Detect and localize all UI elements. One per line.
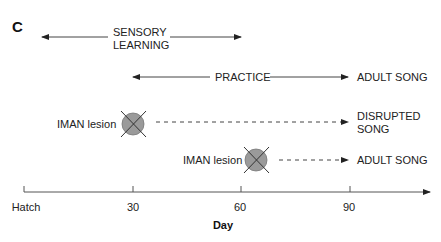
- lesion-early-outcome-line2: SONG: [357, 123, 389, 135]
- song-learning-timeline-diagram: C SENSORY LEARNING PRACTICE ADULT SONG I…: [0, 0, 441, 242]
- lesion-late-outcome: ADULT SONG: [357, 154, 428, 166]
- lesion-early-outcome-line1: DISRUPTED: [357, 110, 421, 122]
- panel-label: C: [12, 18, 23, 35]
- practice-phase: PRACTICE ADULT SONG: [133, 71, 428, 83]
- lesion-late: IMAN lesion ADULT SONG: [183, 147, 428, 173]
- day-axis: Hatch 30 60 90 Day: [12, 186, 430, 231]
- practice-label: PRACTICE: [215, 71, 271, 83]
- tick-label-hatch: Hatch: [12, 201, 41, 213]
- practice-outcome: ADULT SONG: [357, 71, 428, 83]
- lesion-early-label: IMAN lesion: [57, 118, 116, 130]
- tick-label-90: 90: [343, 201, 355, 213]
- sensory-label-line2: LEARNING: [113, 39, 169, 51]
- sensory-label-line1: SENSORY: [113, 26, 167, 38]
- lesion-early: IMAN lesion DISRUPTED SONG: [57, 110, 421, 137]
- sensory-learning-phase: SENSORY LEARNING: [42, 26, 241, 51]
- lesion-late-label: IMAN lesion: [183, 154, 242, 166]
- tick-label-60: 60: [234, 201, 246, 213]
- axis-title: Day: [213, 219, 234, 231]
- tick-label-30: 30: [127, 201, 139, 213]
